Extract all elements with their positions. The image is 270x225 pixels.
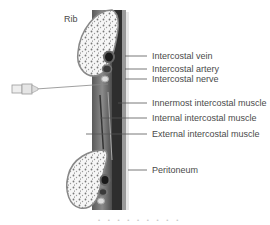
label-innermost-intercostal-muscle: Innermost intercostal muscle	[152, 98, 267, 108]
label-intercostal-artery: Intercostal artery	[152, 64, 219, 74]
intercostal-anatomy-diagram: Rib Intercostal vein Intercostal artery …	[0, 0, 270, 225]
label-intercostal-nerve: Intercostal nerve	[152, 74, 219, 84]
label-peritoneum: Peritoneum	[152, 165, 198, 175]
label-rib: Rib	[64, 14, 78, 24]
footer-dots: • • • • • • • • •	[98, 217, 181, 223]
label-internal-intercostal-muscle: Internal intercostal muscle	[152, 113, 257, 123]
label-external-intercostal-muscle: External intercostal muscle	[152, 129, 260, 139]
label-intercostal-vein: Intercostal vein	[152, 51, 213, 61]
